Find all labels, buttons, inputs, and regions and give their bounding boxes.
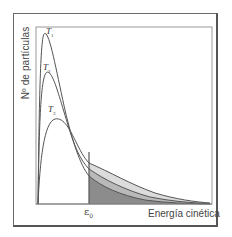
threshold-subscript: 0 — [89, 212, 93, 219]
y-axis-label: Nº de partículas — [20, 27, 31, 100]
curve-label-t1-sub: 1 — [51, 33, 54, 38]
curve-label-t1: T1 — [46, 26, 54, 38]
plot-area — [0, 0, 232, 237]
x-axis-label: Energía cinética — [148, 208, 220, 219]
curve-label-t2-sub: 2 — [48, 69, 51, 74]
curve-t1 — [38, 33, 210, 204]
threshold-label: ε0 — [84, 206, 93, 219]
axes-box — [36, 27, 212, 204]
curve-label-t3-sub: 3 — [53, 111, 56, 116]
curve-label-t2: T2 — [43, 62, 51, 74]
curve-label-t3: T3 — [48, 104, 56, 116]
